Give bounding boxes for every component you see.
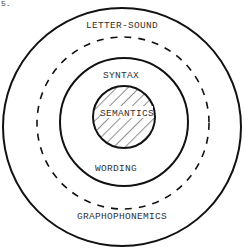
syntax-label: SYNTAX bbox=[103, 70, 139, 81]
semantics-label: SEMANTICS bbox=[100, 108, 154, 119]
corner-fragment-text: 5. bbox=[1, 0, 11, 8]
wording-label: WORDING bbox=[95, 163, 137, 174]
letter-sound-label: LETTER-SOUND bbox=[86, 20, 158, 31]
graphophonemics-label: GRAPHOPHONEMICS bbox=[77, 211, 167, 222]
concentric-language-diagram: 5. LETTER-SOUND SYNTAX SEMANTICS WORDING… bbox=[0, 0, 244, 252]
